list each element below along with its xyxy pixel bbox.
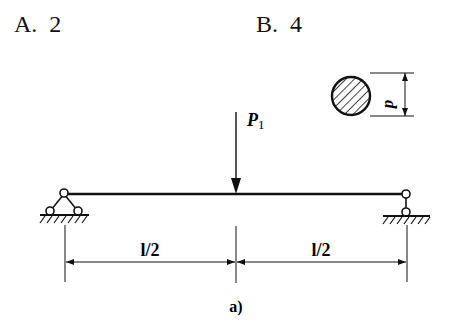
span-dimensions	[65, 225, 407, 283]
beam-diagram: d P1	[0, 0, 468, 320]
diameter-label: d	[381, 100, 400, 109]
load-arrow-icon	[231, 112, 241, 194]
span-right-label: l/2	[311, 240, 330, 260]
load-label: P1	[246, 110, 265, 132]
cross-section-icon: d	[332, 73, 414, 116]
figure-caption: a)	[229, 298, 242, 316]
span-left-label: l/2	[140, 240, 159, 260]
